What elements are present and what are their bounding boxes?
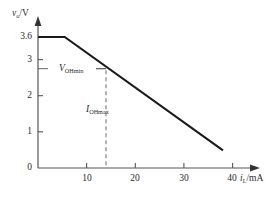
y-axis-arrow (35, 16, 42, 26)
x-tick-label-10: 10 (76, 174, 98, 184)
x-tick-label-30: 30 (173, 174, 195, 184)
x-axis-arrow (250, 165, 260, 172)
y-tick-label-1: 1 (10, 127, 32, 137)
y-axis-title-unit: /V (19, 8, 29, 18)
y-tick-label-0: 0 (10, 163, 32, 173)
output-characteristic-chart: 3.6 3 2 1 0 10 20 30 40 vo/V iL/mA VOHmi… (0, 0, 276, 197)
i-oh-max-subscript: OHmax (89, 108, 109, 115)
x-axis-title-unit: /mA (246, 173, 263, 183)
v-oh-min-symbol: V (59, 63, 65, 73)
plot-area (0, 0, 276, 197)
y-tick-label-2: 2 (10, 91, 32, 101)
y-axis-title-subscript: o (16, 12, 19, 19)
annotation-i-oh-max: IOHmax (86, 105, 109, 115)
characteristic-curve (38, 37, 223, 150)
annotation-v-oh-min: VOHmin (59, 64, 83, 74)
x-tick-label-20: 20 (124, 174, 146, 184)
v-oh-min-subscript: OHmin (65, 67, 84, 74)
x-axis-title-subscript: L (243, 177, 247, 184)
y-tick-label-3-6: 3.6 (10, 32, 32, 42)
y-tick-label-3: 3 (10, 55, 32, 65)
y-axis-title: vo/V (12, 9, 29, 19)
x-axis-title: iL/mA (240, 174, 263, 184)
